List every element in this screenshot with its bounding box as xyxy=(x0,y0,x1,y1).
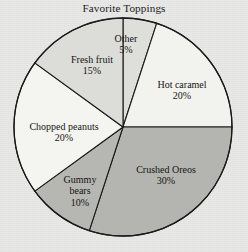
pie-chart-figure: Favorite Toppings Other 5% Hot caramel 2… xyxy=(0,0,248,252)
pie-chart-graphic xyxy=(0,0,248,252)
